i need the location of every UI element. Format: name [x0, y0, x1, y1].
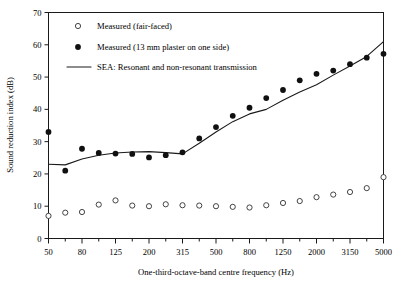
chart-legend: Measured (fair-faced) Measured (13 mm pl…	[67, 21, 258, 72]
data-point-plaster	[196, 136, 202, 142]
data-point-plaster	[381, 51, 387, 57]
data-point-fair-faced	[180, 203, 185, 208]
data-point-plaster	[314, 71, 320, 77]
data-point-fair-faced	[46, 213, 51, 218]
sound-reduction-index-chart: 010203040506070 508012520031550080012502…	[0, 0, 404, 283]
x-axis-title: One-third-octave-band centre frequency (…	[138, 267, 294, 277]
data-point-fair-faced	[197, 203, 202, 208]
y-tick-label: 40	[33, 104, 42, 114]
y-tick-label: 0	[37, 234, 41, 244]
y-tick-label: 30	[33, 137, 42, 147]
data-point-plaster	[62, 168, 68, 174]
data-point-plaster	[330, 68, 336, 74]
data-point-fair-faced	[247, 205, 252, 210]
x-tick-label: 500	[210, 247, 223, 257]
sea-transmission-line	[49, 42, 384, 165]
data-point-plaster	[146, 155, 152, 161]
data-point-plaster	[129, 151, 135, 157]
legend-label-fair-faced: Measured (fair-faced)	[97, 21, 172, 31]
data-point-plaster	[113, 151, 119, 157]
chart-figure: 010203040506070 508012520031550080012502…	[0, 0, 404, 283]
x-tick-label: 50	[44, 247, 53, 257]
data-point-fair-faced	[163, 202, 168, 207]
x-tick-label: 800	[243, 247, 256, 257]
legend-marker-open-circle-icon	[75, 23, 80, 28]
legend-marker-filled-circle-icon	[75, 44, 81, 50]
y-tick-label: 60	[33, 40, 42, 50]
x-tick-label: 125	[109, 247, 122, 257]
y-tick-label: 10	[33, 201, 42, 211]
data-point-plaster	[230, 113, 236, 119]
data-point-fair-faced	[314, 195, 319, 200]
data-point-plaster	[297, 77, 303, 83]
legend-label-plaster: Measured (13 mm plaster on one side)	[97, 42, 229, 52]
x-tick-label: 2000	[308, 247, 325, 257]
data-point-plaster	[79, 146, 85, 152]
x-tick-label: 200	[143, 247, 156, 257]
y-tick-label: 20	[33, 169, 42, 179]
data-point-plaster	[213, 124, 219, 130]
data-point-fair-faced	[146, 204, 151, 209]
data-point-plaster	[364, 55, 370, 61]
data-point-plaster	[46, 129, 52, 135]
x-tick-label: 1250	[275, 247, 292, 257]
data-point-fair-faced	[364, 186, 369, 191]
data-point-fair-faced	[113, 198, 118, 203]
data-point-fair-faced	[280, 200, 285, 205]
x-tick-label: 3150	[342, 247, 359, 257]
data-point-fair-faced	[381, 175, 386, 180]
data-point-plaster	[163, 152, 169, 158]
data-point-plaster	[247, 105, 253, 111]
data-point-plaster	[263, 95, 269, 101]
data-point-fair-faced	[297, 198, 302, 203]
data-point-plaster	[180, 149, 186, 155]
data-point-fair-faced	[79, 209, 84, 214]
y-axis-title: Sound reduction index (dB)	[5, 77, 15, 173]
series-fairfaced-points	[46, 175, 386, 219]
data-point-plaster	[280, 87, 286, 93]
y-tick-label: 50	[33, 72, 42, 82]
data-point-fair-faced	[264, 203, 269, 208]
y-axis: 010203040506070	[33, 8, 49, 244]
data-point-fair-faced	[63, 210, 68, 215]
data-point-plaster	[347, 61, 353, 67]
data-point-plaster	[96, 150, 102, 156]
data-point-fair-faced	[130, 203, 135, 208]
x-tick-label: 315	[176, 247, 189, 257]
y-tick-label: 70	[33, 8, 42, 18]
x-axis: 50801252003155008001250200031505000	[44, 239, 392, 257]
data-point-fair-faced	[347, 189, 352, 194]
legend-label-sea: SEA: Resonant and non-resonant transmiss…	[97, 62, 258, 72]
data-point-fair-faced	[331, 192, 336, 197]
x-tick-label: 80	[78, 247, 87, 257]
data-point-fair-faced	[213, 204, 218, 209]
data-point-fair-faced	[96, 202, 101, 207]
data-point-fair-faced	[230, 204, 235, 209]
x-tick-label: 5000	[375, 247, 392, 257]
